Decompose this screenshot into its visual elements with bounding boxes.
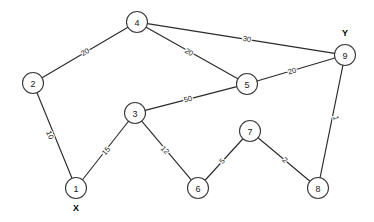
node-label-1: 1 [73,184,78,194]
node-label-9: 9 [342,51,347,61]
edge-weight-text: 20 [183,46,195,58]
edge-weight-4-9: 3030 [242,34,252,44]
graph-node-7[interactable]: 7 [240,121,261,142]
graph-node-2[interactable]: 2 [23,73,44,94]
edge-weight-text: 20 [287,65,298,76]
graph-edge-5-9 [257,58,335,81]
graph-node-3[interactable]: 3 [125,103,146,124]
graph-node-4[interactable]: 4 [127,12,148,33]
graph-node-5[interactable]: 5 [237,74,258,95]
node-label-5: 5 [244,80,249,90]
node-label-6: 6 [195,184,200,194]
graph-diagram: 20202020303020205050101015151212552211 1… [0,0,374,222]
edge-weight-9-8: 11 [331,115,341,121]
graph-edge-4-9 [147,24,334,54]
edge-weight-text: 1 [331,115,341,121]
graph-node-8[interactable]: 8 [308,178,329,199]
nodes-layer: 123456789 [23,12,356,199]
graph-svg-canvas: 20202020303020205050101015151212552211 1… [0,0,374,222]
edge-weights-layer: 20202020303020205050101015151212552211 [44,34,341,166]
edge-weight-2-4: 2020 [79,46,91,58]
graph-node-6[interactable]: 6 [188,178,209,199]
graph-node-1[interactable]: 1 [66,178,87,199]
edge-weight-text: 10 [44,129,55,140]
edge-weight-5-9: 2020 [287,65,298,76]
edge-weight-3-5: 5050 [183,94,193,105]
graph-node-9[interactable]: 9 [335,45,356,66]
terminal-labels-layer: XY [73,28,348,213]
edge-weight-text: 20 [79,46,91,58]
edge-weight-text: 30 [242,34,252,44]
graph-edge-6-7 [205,139,243,180]
edge-weight-4-5: 2020 [183,46,195,58]
source-terminal: X [73,203,79,213]
node-label-3: 3 [132,109,137,119]
edge-weight-text: 50 [183,94,193,105]
graph-edge-9-8 [320,65,343,177]
sink-terminal: Y [342,28,348,38]
edge-weight-2-1: 1010 [44,129,55,140]
node-label-7: 7 [247,127,252,137]
node-label-4: 4 [134,18,139,28]
node-label-8: 8 [315,184,320,194]
node-label-2: 2 [30,79,35,89]
